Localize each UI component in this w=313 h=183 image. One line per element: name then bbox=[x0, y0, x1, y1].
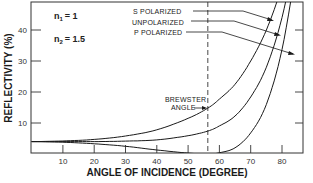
brewster-label-line2: ANGLE bbox=[171, 104, 196, 111]
y-tick-label: 30 bbox=[18, 57, 27, 66]
x-tick-label: 50 bbox=[184, 157, 193, 166]
x-axis-ticks: 1020304050607080 bbox=[58, 145, 287, 166]
y-tick-label: 10 bbox=[18, 119, 27, 128]
x-tick-label: 70 bbox=[246, 157, 255, 166]
x-tick-label: 60 bbox=[215, 157, 224, 166]
n2-label: n2= 1.5 bbox=[54, 34, 85, 45]
x-axis-title: ANGLE OF INCIDENCE (DEGREE) bbox=[86, 167, 247, 178]
x-tick-label: 80 bbox=[278, 157, 287, 166]
y-axis-title: REFLECTIVITY (%) bbox=[3, 33, 14, 122]
y-tick-label: 40 bbox=[18, 26, 27, 35]
x-tick-label: 40 bbox=[152, 157, 161, 166]
brewster-label-line1: BREWSTER bbox=[165, 96, 206, 103]
x-tick-label: 10 bbox=[58, 157, 67, 166]
x-tick-label: 30 bbox=[121, 157, 130, 166]
legend-s-polarized: S POLARIZED bbox=[133, 8, 182, 15]
n1-label: n1= 1 bbox=[54, 11, 78, 22]
y-tick-label: 20 bbox=[18, 88, 27, 97]
legend-unpolarized: UNPOLARIZED bbox=[132, 19, 184, 26]
legend-p-polarized: P POLARIZED bbox=[134, 29, 182, 36]
legend-leader-lines bbox=[186, 11, 293, 54]
reflectivity-chart: 10203040 1020304050607080 n1= 1 n2= 1.5 … bbox=[0, 0, 313, 183]
x-tick-label: 20 bbox=[90, 157, 99, 166]
